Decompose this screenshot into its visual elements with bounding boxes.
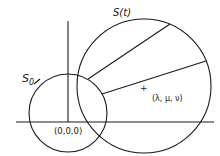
center-marker-icon: + — [140, 83, 148, 93]
radial-line-lower — [102, 61, 206, 94]
label-s0-leader — [34, 79, 40, 84]
spheres-diagram: S0 S(t) + (λ, μ, ν) (0,0,0) — [0, 0, 220, 156]
label-center-point: (λ, μ, ν) — [152, 94, 183, 103]
radial-line-upper — [88, 24, 170, 79]
label-st: S(t) — [113, 7, 131, 18]
label-s0: S0 — [22, 72, 34, 87]
label-origin: (0,0,0) — [54, 126, 82, 136]
